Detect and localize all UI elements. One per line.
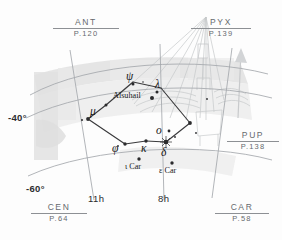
star-field-c <box>174 136 176 138</box>
star-epsilon-car <box>170 161 173 164</box>
star-vela-southwest <box>105 104 108 107</box>
neighbor-page-pyx: P.139 <box>190 30 252 38</box>
star-phi <box>123 142 126 145</box>
neighbor-abbr-pup: PUP <box>226 131 280 141</box>
star-field-d <box>195 132 197 134</box>
star-label-kappa: κ <box>141 142 147 154</box>
star-field-a <box>81 119 83 121</box>
star-omicron <box>168 130 171 133</box>
neighbor-abbr-pyx: PYX <box>190 18 252 28</box>
star-label-mu: μ <box>90 105 96 117</box>
neighbor-page-pup: P.138 <box>226 143 280 151</box>
star-chart-page: ANT P.120 PYX P.139 PUP P.138 CAR P.58 C… <box>0 0 282 240</box>
star-iota-car <box>137 157 140 160</box>
star-label-epsilon-car: ε Car <box>159 166 176 175</box>
neighbor-abbr-car: CAR <box>214 203 270 213</box>
star-vela-east <box>188 121 192 125</box>
neighbor-ref-cen[interactable]: CEN P.64 <box>30 203 88 223</box>
milky-way-band <box>34 57 252 176</box>
star-field-e <box>142 81 144 83</box>
neighbor-page-ant: P.120 <box>52 30 120 38</box>
star-field-f <box>206 98 208 100</box>
star-label-alsuhail: Alsuhail <box>113 91 141 100</box>
neighbor-abbr-ant: ANT <box>52 18 120 28</box>
star-label-psi: ψ <box>126 70 133 82</box>
star-label-delta: δ <box>161 146 166 158</box>
hour-label-8h: 8h <box>158 193 170 204</box>
star-label-omicron: ο <box>156 124 162 136</box>
neighbor-page-car: P.58 <box>214 215 270 223</box>
star-alsuhail <box>150 96 154 100</box>
star-label-iota-car: ι Car <box>125 162 141 171</box>
star-label-phi: φ <box>112 142 118 154</box>
neighbor-page-cen: P.64 <box>30 215 88 223</box>
declination-label-minus-60: -60° <box>26 183 45 194</box>
neighbor-ref-pyx[interactable]: PYX P.139 <box>190 18 252 38</box>
neighbor-ref-pup[interactable]: PUP P.138 <box>226 131 280 151</box>
hour-label-11h: 11h <box>88 193 105 204</box>
neighbor-abbr-cen: CEN <box>30 203 88 213</box>
neighbor-ref-ant[interactable]: ANT P.120 <box>52 18 120 38</box>
star-label-lambda: λ <box>155 78 160 90</box>
star-psi <box>132 83 135 86</box>
star-mu <box>86 117 90 121</box>
declination-label-minus-40: -40° <box>8 112 27 123</box>
neighbor-ref-car[interactable]: CAR P.58 <box>214 203 270 223</box>
star-lambda <box>156 91 159 94</box>
